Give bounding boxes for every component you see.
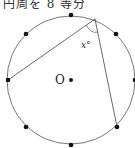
point (133, 78, 135, 83)
center-point (69, 78, 73, 82)
circle-diagram: O x° (0, 0, 135, 148)
point (69, 143, 74, 148)
point (24, 32, 29, 37)
point (69, 13, 74, 18)
point (24, 125, 29, 130)
point (114, 32, 119, 37)
point (6, 78, 11, 83)
center-label: O (55, 73, 65, 87)
point (115, 125, 120, 130)
angle-label: x° (81, 40, 91, 50)
chord-right (95, 19, 117, 127)
